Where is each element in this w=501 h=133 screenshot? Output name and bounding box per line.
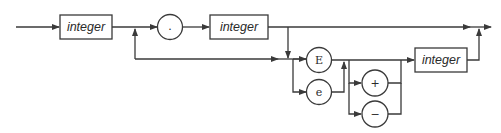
integer-box-3: integer bbox=[415, 48, 467, 72]
path-to-e bbox=[293, 59, 306, 92]
dot-label: . bbox=[168, 20, 172, 33]
e-label: e bbox=[316, 86, 323, 99]
minus-terminal: − bbox=[362, 101, 388, 127]
path-to-plus bbox=[349, 60, 361, 83]
dot-terminal: . bbox=[158, 15, 183, 40]
e-terminal: e bbox=[307, 80, 332, 105]
minus-label: − bbox=[370, 108, 379, 121]
integer-box-1: integer bbox=[60, 15, 112, 39]
path-to-minus bbox=[349, 83, 361, 114]
integer-label-3: integer bbox=[422, 53, 461, 67]
exponent-exit-arrow bbox=[467, 29, 479, 60]
integer-box-2: integer bbox=[210, 15, 268, 39]
minus-join bbox=[388, 83, 401, 114]
plus-terminal: + bbox=[362, 70, 388, 96]
e-join-arrow bbox=[332, 62, 344, 92]
E-terminal: E bbox=[307, 48, 332, 73]
plus-label: + bbox=[370, 77, 379, 90]
syntax-diagram: integer . integer E e + − bbox=[0, 0, 501, 133]
integer-label-2: integer bbox=[220, 20, 259, 34]
integer-label-1: integer bbox=[67, 20, 106, 34]
plus-join bbox=[388, 60, 401, 83]
E-label: E bbox=[315, 54, 323, 67]
